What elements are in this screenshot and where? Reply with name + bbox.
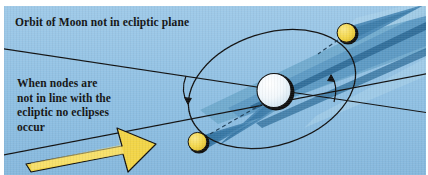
page-title: Orbit of Moon not in ecliptic plane — [15, 16, 189, 29]
explanatory-note: When nodes are not in line with the ecli… — [17, 76, 111, 134]
astronomy-figure: Orbit of Moon not in ecliptic plane When… — [0, 0, 428, 175]
figure-plate: Orbit of Moon not in ecliptic plane When… — [4, 6, 426, 175]
